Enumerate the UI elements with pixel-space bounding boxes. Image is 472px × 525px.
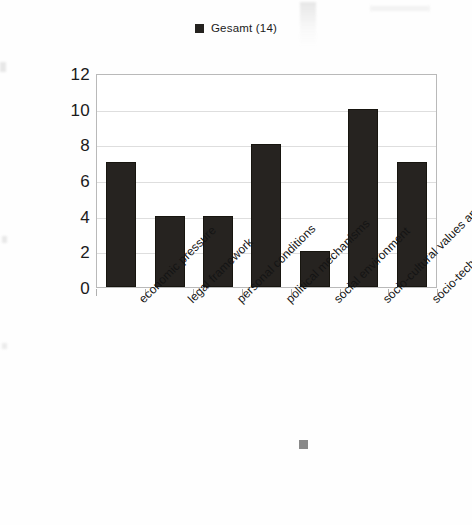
legend-label: Gesamt (14) [211, 22, 277, 34]
scan-artifact-top-right [370, 6, 430, 11]
y-tick-label: 8 [80, 137, 90, 154]
chart-page: Gesamt (14) 024681012 economic pressurel… [0, 0, 472, 525]
legend-swatch-icon [195, 24, 204, 33]
x-tick-label: socio-technological change [429, 296, 439, 306]
x-tick [96, 289, 97, 296]
x-tick-label: social environment [331, 296, 341, 306]
scan-artifact-left-upper [0, 62, 6, 72]
y-axis: 024681012 [46, 74, 90, 288]
x-tick-label: economic pressure [136, 296, 146, 306]
y-tick-label: 4 [80, 208, 90, 225]
legend-item-gesamt: Gesamt (14) [195, 22, 277, 34]
x-tick-label: personal conditions [234, 296, 244, 306]
y-tick-label: 12 [70, 66, 90, 83]
x-tick-label: political mechanisms [283, 296, 293, 306]
y-tick-label: 6 [80, 173, 90, 190]
y-tick-label: 10 [70, 101, 90, 118]
x-tick-label: legal framework [185, 296, 195, 306]
y-tick-label: 2 [80, 244, 90, 261]
scan-artifact-left-lower [2, 343, 7, 349]
y-tick-label: 0 [80, 280, 90, 297]
x-axis-labels: economic pressurelegal frameworkpersonal… [96, 296, 437, 466]
bar-economic-pressure [106, 162, 136, 287]
scan-artifact-left-mid [2, 236, 7, 243]
x-tick-label: socio-cultural values and practices [380, 296, 390, 306]
bar-slot [97, 75, 145, 287]
chart-legend: Gesamt (14) [0, 22, 472, 34]
